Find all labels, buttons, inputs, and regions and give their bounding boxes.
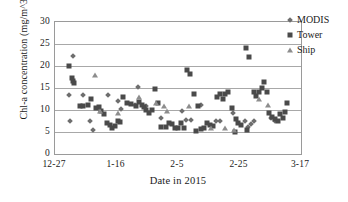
data-point-ship bbox=[222, 125, 228, 130]
data-point-modis bbox=[66, 92, 72, 98]
data-point-tower bbox=[120, 94, 125, 99]
data-point-tower bbox=[66, 64, 71, 69]
data-point-tower bbox=[191, 92, 196, 97]
data-point-ship bbox=[164, 108, 170, 113]
chart-legend: MODISTowerShip bbox=[286, 12, 348, 57]
data-point-tower bbox=[243, 46, 248, 51]
data-point-tower bbox=[264, 90, 269, 95]
data-point-tower bbox=[285, 100, 290, 105]
data-point-modis bbox=[135, 84, 141, 90]
data-point-tower bbox=[72, 80, 77, 85]
data-point-tower bbox=[117, 120, 122, 125]
data-point-tower bbox=[280, 115, 285, 120]
data-point-modis bbox=[179, 108, 185, 114]
data-point-tower bbox=[244, 128, 249, 133]
data-point-tower bbox=[194, 129, 199, 134]
data-point-ship bbox=[97, 108, 103, 113]
data-point-ship bbox=[161, 103, 167, 108]
legend-item-modis[interactable]: MODIS bbox=[286, 12, 348, 27]
x-tick-label: 1-16 bbox=[106, 159, 124, 170]
data-point-ship bbox=[136, 94, 142, 99]
data-point-tower bbox=[246, 55, 251, 60]
triangle-marker-icon bbox=[286, 46, 294, 54]
data-point-tower bbox=[220, 96, 225, 101]
y-tick-label: 10 bbox=[4, 104, 50, 114]
data-point-ship bbox=[256, 96, 262, 101]
legend-label: MODIS bbox=[297, 14, 329, 25]
data-point-tower bbox=[202, 125, 207, 130]
x-tick-label: 3-17 bbox=[291, 159, 309, 170]
data-point-modis bbox=[68, 118, 74, 124]
x-tick-label: 12-27 bbox=[42, 159, 65, 170]
data-point-tower bbox=[234, 116, 239, 121]
x-tick-label: 2-5 bbox=[170, 159, 183, 170]
y-tick-label: 30 bbox=[4, 16, 50, 26]
data-point-modis bbox=[159, 115, 165, 121]
data-point-ship bbox=[208, 126, 214, 131]
data-point-tower bbox=[88, 96, 93, 101]
data-point-ship bbox=[92, 72, 98, 77]
data-point-ship bbox=[153, 100, 159, 105]
data-point-tower bbox=[239, 122, 244, 127]
x-tick-label: 2-25 bbox=[229, 159, 247, 170]
data-point-modis bbox=[87, 119, 93, 125]
data-point-tower bbox=[188, 71, 193, 76]
data-point-tower bbox=[153, 86, 158, 91]
y-tick-label: 25 bbox=[4, 38, 50, 48]
data-point-tower bbox=[133, 104, 138, 109]
y-tick-label: 20 bbox=[4, 60, 50, 70]
data-point-tower bbox=[85, 102, 90, 107]
data-point-modis bbox=[80, 93, 86, 99]
data-point-tower bbox=[226, 90, 231, 95]
data-point-tower bbox=[195, 103, 200, 108]
legend-item-ship[interactable]: Ship bbox=[286, 42, 348, 57]
square-marker-icon bbox=[286, 31, 294, 39]
y-tick-label: 0 bbox=[4, 148, 50, 158]
y-tick-label: 5 bbox=[4, 126, 50, 136]
data-point-modis bbox=[105, 92, 111, 98]
gridline bbox=[55, 44, 301, 45]
gridline bbox=[55, 66, 301, 67]
data-point-tower bbox=[150, 108, 155, 113]
data-point-modis bbox=[188, 117, 194, 123]
legend-item-tower[interactable]: Tower bbox=[286, 27, 348, 42]
data-point-ship bbox=[186, 104, 192, 109]
data-point-tower bbox=[181, 125, 186, 130]
data-point-modis bbox=[71, 53, 77, 59]
data-point-tower bbox=[176, 126, 181, 131]
data-point-tower bbox=[230, 106, 235, 111]
diamond-marker-icon bbox=[286, 16, 294, 24]
legend-label: Ship bbox=[297, 44, 315, 55]
y-axis-tick-labels: 051015202530 bbox=[0, 0, 50, 202]
chart-container: Chl-a concentration (mg/m^3) 05101520253… bbox=[0, 0, 348, 202]
y-tick-label: 15 bbox=[4, 82, 50, 92]
plot-area bbox=[54, 21, 302, 155]
data-point-ship bbox=[231, 128, 237, 133]
x-axis-title: Date in 2015 bbox=[54, 175, 302, 187]
data-point-modis bbox=[218, 118, 224, 124]
data-point-tower bbox=[283, 109, 288, 114]
data-point-ship bbox=[115, 110, 121, 115]
data-point-tower bbox=[262, 79, 267, 84]
legend-label: Tower bbox=[297, 29, 322, 40]
data-point-ship bbox=[265, 102, 271, 107]
